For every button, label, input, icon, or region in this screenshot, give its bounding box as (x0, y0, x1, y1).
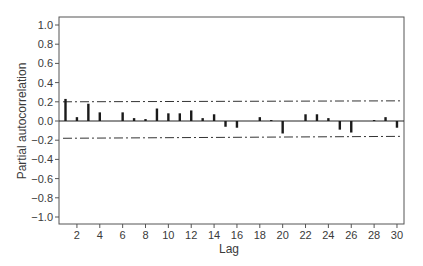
y-tick-label: 0.6 (38, 57, 53, 69)
x-tick-label: 26 (345, 229, 357, 241)
pacf-bar-lag-28 (373, 120, 375, 121)
pacf-bar-lag-9 (156, 109, 158, 121)
x-axis: 24681012141618202224262830 (74, 224, 403, 241)
pacf-bar-lag-30 (396, 121, 398, 128)
x-tick-label: 6 (120, 229, 126, 241)
x-tick-label: 20 (277, 229, 289, 241)
pacf-bar-lag-29 (384, 117, 386, 121)
pacf-bar-lag-3 (87, 104, 89, 121)
pacf-bar-lag-25 (339, 121, 341, 130)
pacf-bar-lag-23 (316, 114, 318, 121)
pacf-bar-lag-1 (64, 99, 66, 121)
y-axis: 1.00.80.60.40.20.0−0.2−0.4−0.6−0.8−1.0 (31, 19, 59, 223)
pacf-bar-lag-14 (213, 114, 215, 121)
pacf-bars (64, 99, 398, 134)
y-tick-label: 0.0 (38, 115, 53, 127)
pacf-bar-lag-22 (304, 114, 306, 121)
x-tick-label: 10 (162, 229, 174, 241)
pacf-bar-lag-26 (350, 121, 352, 133)
pacf-bar-lag-11 (179, 113, 181, 121)
pacf-bar-lag-8 (144, 119, 146, 121)
x-tick-label: 4 (97, 229, 103, 241)
y-tick-label: 0.8 (38, 38, 53, 50)
y-axis-label: Partial autocorrelation (15, 63, 29, 180)
x-tick-label: 14 (208, 229, 220, 241)
pacf-plot-svg: 1.00.80.60.40.20.0−0.2−0.4−0.6−0.8−1.0 2… (0, 0, 423, 266)
pacf-bar-lag-20 (281, 121, 283, 133)
x-tick-label: 22 (299, 229, 311, 241)
x-axis-label: Lag (219, 242, 239, 256)
upper-confidence-band (63, 101, 402, 102)
pacf-bar-lag-2 (76, 117, 78, 121)
pacf-bar-lag-4 (99, 112, 101, 121)
pacf-bar-lag-19 (270, 120, 272, 121)
x-tick-label: 8 (142, 229, 148, 241)
y-tick-label: −0.6 (31, 173, 53, 185)
pacf-bar-lag-16 (236, 121, 238, 128)
pacf-chart: 1.00.80.60.40.20.0−0.2−0.4−0.6−0.8−1.0 2… (0, 0, 423, 266)
y-tick-label: −0.8 (31, 192, 53, 204)
pacf-bar-lag-12 (190, 110, 192, 121)
pacf-bar-lag-15 (224, 121, 226, 127)
y-tick-label: −1.0 (31, 211, 53, 223)
pacf-bar-lag-13 (201, 118, 203, 121)
y-tick-label: 1.0 (38, 19, 53, 31)
pacf-bar-lag-7 (133, 118, 135, 121)
lower-confidence-band (63, 136, 402, 138)
pacf-bar-lag-6 (121, 112, 123, 121)
x-tick-label: 18 (254, 229, 266, 241)
pacf-bar-lag-18 (259, 117, 261, 121)
x-tick-label: 12 (185, 229, 197, 241)
x-tick-label: 2 (74, 229, 80, 241)
x-tick-label: 30 (391, 229, 403, 241)
y-tick-label: 0.4 (38, 77, 53, 89)
y-tick-label: −0.4 (31, 153, 53, 165)
pacf-bar-lag-24 (327, 118, 329, 121)
pacf-bar-lag-10 (167, 113, 169, 121)
x-tick-label: 28 (368, 229, 380, 241)
x-tick-label: 24 (322, 229, 334, 241)
x-tick-label: 16 (231, 229, 243, 241)
y-tick-label: 0.2 (38, 96, 53, 108)
y-tick-label: −0.2 (31, 134, 53, 146)
